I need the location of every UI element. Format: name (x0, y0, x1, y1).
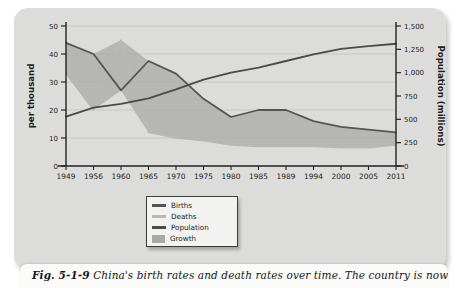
chart-legend: Births Deaths Population Growth (146, 196, 238, 247)
figure-caption-bar: Fig. 5-1-9 China's birth rates and death… (20, 264, 448, 288)
x-tick-label: 1985 (249, 172, 268, 181)
x-tick-label: 2000 (332, 172, 351, 181)
x-tick-label: 1960 (112, 172, 131, 181)
figure-caption-body: China's birth rates and death rates over… (93, 269, 448, 281)
legend-item-population[interactable]: Population (152, 222, 237, 233)
legend-swatch-growth (152, 235, 165, 243)
y-tick-label-right: 1,500 (404, 23, 424, 31)
y-tick-label-left: 20 (49, 107, 58, 115)
y-tick-label-right: 500 (404, 116, 417, 124)
legend-item-growth[interactable]: Growth (152, 233, 237, 244)
y-tick-label-left: 40 (49, 51, 58, 59)
y-axis-title-right: Population (millions) (436, 45, 446, 146)
figure-caption: Fig. 5-1-9 China's birth rates and death… (32, 269, 448, 281)
growth-area (66, 40, 396, 148)
chart-plot-area: 0102030405002505007501,0001,2501,5001949… (14, 8, 446, 208)
x-tick-label: 1956 (84, 172, 103, 181)
y-tick-label-left: 0 (54, 163, 58, 171)
x-tick-label: 1980 (222, 172, 241, 181)
x-tick-label: 1975 (194, 172, 213, 181)
figure-number: Fig. 5-1-9 (32, 269, 90, 281)
x-tick-label: 1989 (277, 172, 296, 181)
y-tick-label-left: 50 (49, 23, 58, 31)
y-tick-label-left: 30 (49, 79, 58, 87)
legend-swatch-deaths (152, 215, 166, 218)
y-tick-label-right: 1,000 (404, 69, 424, 77)
y-tick-label-right: 250 (404, 139, 417, 147)
legend-label-deaths: Deaths (171, 211, 196, 222)
y-axis-title-left: per thousand (26, 64, 36, 129)
chart-svg: 0102030405002505007501,0001,2501,5001949… (14, 8, 446, 208)
y-tick-label-left: 10 (49, 135, 58, 143)
legend-label-population: Population (171, 222, 209, 233)
x-tick-label: 2005 (359, 172, 378, 181)
legend-swatch-births (152, 204, 166, 207)
y-tick-label-right: 1,250 (404, 46, 424, 54)
x-tick-label: 1994 (304, 172, 323, 181)
legend-item-deaths[interactable]: Deaths (152, 211, 237, 222)
legend-item-births[interactable]: Births (152, 200, 237, 211)
figure-root: 0102030405002505007501,0001,2501,5001949… (0, 0, 460, 288)
x-tick-label: 1970 (167, 172, 186, 181)
y-tick-label-right: 750 (404, 93, 417, 101)
x-tick-label: 1949 (57, 172, 76, 181)
x-tick-label: 1965 (139, 172, 158, 181)
x-tick-label: 2011 (387, 172, 406, 181)
legend-label-births: Births (171, 200, 192, 211)
legend-label-growth: Growth (170, 233, 196, 244)
y-tick-label-right: 0 (404, 163, 408, 171)
legend-swatch-population (152, 226, 166, 229)
